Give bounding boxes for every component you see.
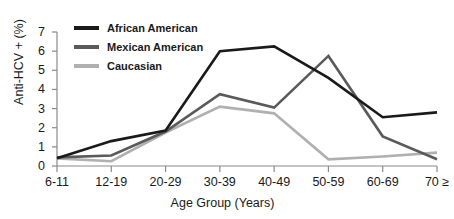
y-tick-label: 1 bbox=[31, 141, 45, 154]
y-tick-label: 7 bbox=[31, 26, 45, 39]
x-tick-label: 30-39 bbox=[192, 176, 248, 189]
chart-legend: African American Mexican American Caucas… bbox=[74, 20, 203, 77]
x-tick-label: 20-29 bbox=[138, 176, 194, 189]
legend-item-mexican-american: Mexican American bbox=[74, 39, 203, 55]
x-tick-label: 40-49 bbox=[246, 176, 302, 189]
y-tick-label: 5 bbox=[31, 64, 45, 77]
legend-item-african-american: African American bbox=[74, 20, 203, 36]
legend-label-mexican-american: Mexican American bbox=[107, 41, 203, 53]
legend-label-african-american: African American bbox=[107, 22, 198, 34]
legend-swatch-caucasian bbox=[74, 64, 99, 68]
legend-swatch-african-american bbox=[74, 26, 99, 30]
legend-swatch-mexican-american bbox=[74, 45, 99, 49]
x-axis-title: Age Group (Years) bbox=[0, 196, 445, 210]
x-tick-label: 60-69 bbox=[355, 176, 411, 189]
legend-label-caucasian: Caucasian bbox=[107, 60, 162, 72]
y-tick-label: 0 bbox=[31, 160, 45, 173]
x-tick-label: 6-11 bbox=[29, 176, 85, 189]
y-tick-label: 6 bbox=[31, 45, 45, 58]
legend-item-caucasian: Caucasian bbox=[74, 58, 203, 74]
x-tick-label: 70 ≥ bbox=[409, 176, 454, 189]
x-tick-label: 50-59 bbox=[300, 176, 356, 189]
y-tick-label: 2 bbox=[31, 122, 45, 135]
x-tick-label: 12-19 bbox=[83, 176, 139, 189]
y-tick-label: 3 bbox=[31, 103, 45, 116]
y-tick-label: 4 bbox=[31, 83, 45, 96]
